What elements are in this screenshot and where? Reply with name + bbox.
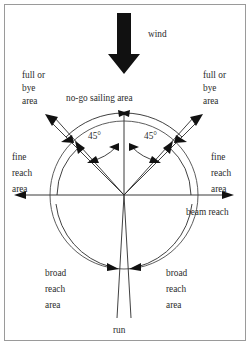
fine-reach-right-line1: fine: [211, 152, 225, 162]
full-or-bye-right-line2: bye: [203, 83, 216, 93]
wind-label: wind: [148, 29, 167, 39]
diagram-canvas: wind no-go sailing area full or bye area…: [0, 0, 250, 345]
angle-label-left: 45°: [88, 131, 101, 141]
fine-reach-right-line3: area: [211, 184, 226, 194]
no-go-wedge-left: [45, 114, 124, 195]
full-or-bye-left-line1: full or: [22, 70, 46, 80]
run-label: run: [113, 325, 126, 335]
points-of-sail-diagram: wind no-go sailing area full or bye area…: [0, 0, 250, 345]
full-or-bye-right-line3: area: [203, 96, 218, 106]
broad-reach-right-line3: area: [166, 300, 181, 310]
full-or-bye-left-line3: area: [22, 96, 37, 106]
broad-reach-left-line3: area: [45, 300, 60, 310]
fine-reach-arc-right: [163, 141, 191, 195]
broad-reach-right-line2: reach: [166, 284, 186, 294]
no-go-wedge-right: [124, 114, 203, 195]
beam-reach-label: beam reach: [186, 207, 229, 217]
angle-label-right: 45°: [144, 131, 157, 141]
fine-reach-left-line2: reach: [12, 168, 32, 178]
broad-reach-left-line2: reach: [45, 284, 65, 294]
run-wedge: [117, 195, 131, 318]
broad-reach-left-line1: broad: [45, 268, 67, 278]
wind-arrow-icon: [108, 13, 140, 74]
inner-angle-arc-right: [129, 143, 161, 163]
no-go-label: no-go sailing area: [66, 93, 133, 103]
full-or-bye-right-line1: full or: [203, 70, 227, 80]
fine-reach-left-line3: area: [12, 184, 27, 194]
broad-reach-arc-left: [56, 204, 119, 271]
fine-reach-arc-left: [57, 141, 85, 195]
full-or-bye-left-line2: bye: [22, 83, 35, 93]
fine-reach-left-line1: fine: [12, 152, 26, 162]
broad-reach-right-line1: broad: [166, 268, 188, 278]
broad-reach-arc-right: [129, 204, 192, 271]
fine-reach-right-line2: reach: [211, 168, 231, 178]
inner-angle-arc-left: [87, 143, 119, 163]
